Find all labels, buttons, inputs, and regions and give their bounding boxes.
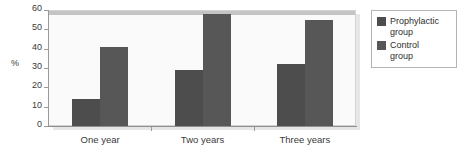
x-axis-tick-label: Three years bbox=[279, 134, 330, 145]
y-axis-tick-mark bbox=[44, 87, 48, 88]
y-axis-tick-label: 20 bbox=[32, 80, 42, 90]
bar-two-years-control-group bbox=[203, 14, 231, 126]
x-axis-tick-label: One year bbox=[81, 134, 120, 145]
bar-one-year-prophylactic-group bbox=[72, 99, 100, 126]
legend-entry: Control group bbox=[377, 40, 452, 61]
x-axis-tick-label: Two years bbox=[181, 134, 224, 145]
bar-two-years-prophylactic-group bbox=[175, 70, 203, 126]
bar-one-year-control-group bbox=[100, 47, 128, 126]
plot-shadow-right bbox=[356, 14, 360, 130]
bars-layer bbox=[49, 10, 356, 126]
bar-chart-figure: % 0102030405060 Prophylactic groupContro… bbox=[0, 0, 462, 154]
y-axis-tick-label: 10 bbox=[32, 100, 42, 110]
y-axis-tick-label: 30 bbox=[32, 61, 42, 71]
y-axis-tick-mark bbox=[44, 107, 48, 108]
y-axis-tick-label: 0 bbox=[37, 119, 42, 129]
y-axis-tick-mark bbox=[44, 68, 48, 69]
legend-label: Control group bbox=[390, 40, 419, 61]
y-axis-tick-label: 40 bbox=[32, 42, 42, 52]
bar-three-years-control-group bbox=[305, 20, 333, 126]
chart-legend: Prophylactic groupControl group bbox=[371, 10, 457, 68]
y-axis-title: % bbox=[11, 58, 19, 68]
y-axis-tick-mark bbox=[44, 49, 48, 50]
y-axis-tick-mark bbox=[44, 10, 48, 11]
y-axis-tick-mark bbox=[44, 126, 48, 127]
y-axis-tick-mark bbox=[44, 29, 48, 30]
legend-swatch-icon bbox=[377, 41, 386, 50]
legend-entry: Prophylactic group bbox=[377, 16, 452, 37]
y-axis-tick-label: 60 bbox=[32, 3, 42, 13]
y-axis-tick-label: 50 bbox=[32, 22, 42, 32]
x-axis-tick-mark bbox=[151, 127, 152, 131]
bar-three-years-prophylactic-group bbox=[277, 64, 305, 126]
y-axis-tick-labels: 0102030405060 bbox=[20, 8, 42, 126]
x-axis-tick-mark bbox=[254, 127, 255, 131]
x-axis-line bbox=[48, 126, 357, 127]
legend-swatch-icon bbox=[377, 17, 386, 26]
legend-label: Prophylactic group bbox=[390, 16, 439, 37]
